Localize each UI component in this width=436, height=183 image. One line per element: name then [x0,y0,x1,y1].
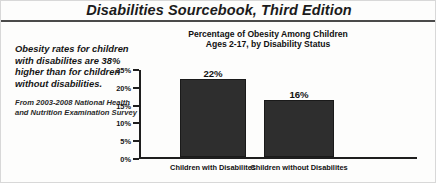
chart-title: Percentage of Obesity Among Children Age… [105,29,431,50]
bar-value-label: 16% [289,89,308,100]
y-axis-tick-label: 15% [116,101,131,110]
chart-title-line-2: Ages 2-17, by Disability Status [105,39,431,49]
y-axis-tick-label: 20% [116,83,131,92]
bar [180,79,246,157]
y-axis-tick [133,105,139,107]
bar [264,100,334,157]
title-divider [1,20,436,22]
obesity-bar-chart: Percentage of Obesity Among Children Age… [105,29,431,181]
y-axis-tick [133,158,139,160]
figure-page: Disabilities Sourcebook, Third Edition O… [0,0,436,183]
bar-value-label: 22% [203,68,222,79]
x-axis-category-label: Children with Disabilites [170,163,256,172]
y-axis-tick [133,69,139,71]
book-title: Disabilities Sourcebook, Third Edition [1,2,436,18]
plot-area: 25%20%15%10%5%0% [139,70,417,159]
y-axis-tick [133,122,139,124]
y-axis-tick [133,87,139,89]
y-axis-tick-label: 0% [120,155,131,164]
y-axis-line [139,70,141,159]
y-axis-tick [133,140,139,142]
x-axis-category-label: Children without Disabilites [250,163,347,172]
chart-title-line-1: Percentage of Obesity Among Children [105,29,431,39]
x-axis-line [139,157,417,159]
y-axis-tick-label: 5% [120,137,131,146]
y-axis-tick-label: 25% [116,66,131,75]
y-axis-tick-label: 10% [116,119,131,128]
